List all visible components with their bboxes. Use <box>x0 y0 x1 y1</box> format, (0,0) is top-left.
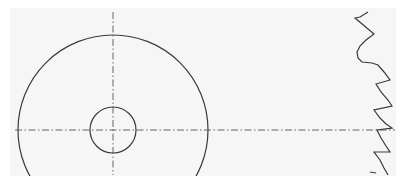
gear-drawing <box>0 0 411 187</box>
tooth-profile-end-tick <box>370 172 376 173</box>
tooth-profile <box>355 12 392 175</box>
